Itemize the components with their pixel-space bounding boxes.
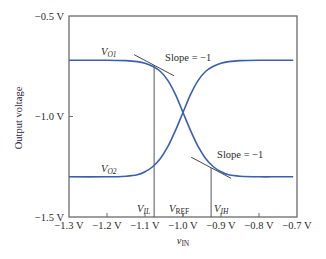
x-tick-label: −0.8 V xyxy=(244,220,273,231)
label-v-ih: VIH xyxy=(214,203,229,216)
y-axis-label: Output voltage xyxy=(13,86,24,149)
label-v-il: VIL xyxy=(137,203,150,216)
y-tick-label: −1.0 V xyxy=(35,111,64,122)
x-tick-label: −0.9 V xyxy=(206,220,235,231)
series-label-v-o2: VO2 xyxy=(101,163,117,176)
x-tick-label: −1.1 V xyxy=(130,220,159,231)
series-label-v-o1: VO1 xyxy=(101,46,117,59)
label-v-ref: VREF xyxy=(169,203,189,216)
y-tick-label: −1.5 V xyxy=(35,212,64,223)
x-tick-label: −1.0 V xyxy=(168,220,197,231)
slope-label: Slope = −1 xyxy=(165,52,211,63)
transfer-characteristic-chart: Output voltage vIN −1.3 V−1.2 V−1.1 V−1.… xyxy=(0,0,326,259)
x-tick-label: −0.7 V xyxy=(282,220,311,231)
x-axis-label-sub: IN xyxy=(181,239,189,248)
x-axis-label: vIN xyxy=(177,235,190,248)
slope-label: Slope = −1 xyxy=(217,149,263,160)
y-tick-label: −0.5 V xyxy=(35,11,64,22)
x-tick-label: −1.2 V xyxy=(92,220,121,231)
